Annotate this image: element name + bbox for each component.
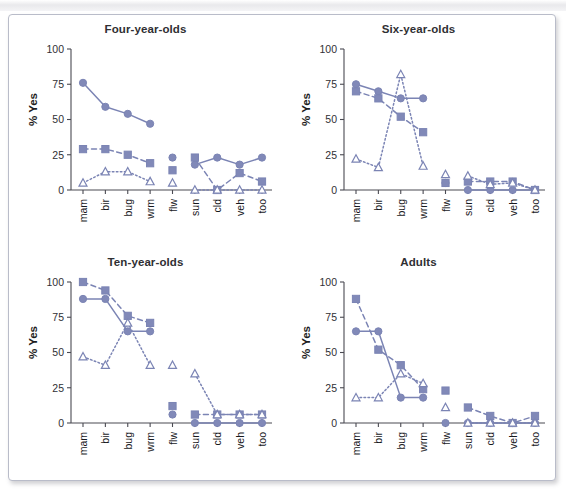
data-point-square [236, 169, 243, 176]
x-axis-tick-label: bir [99, 198, 111, 210]
y-axis-tick-label: 25 [325, 149, 337, 161]
data-point-circle [147, 120, 154, 127]
data-point-circle [420, 95, 427, 102]
y-axis-tick-label: 0 [58, 184, 64, 196]
x-axis-tick-label: sun [189, 431, 201, 448]
y-axis-tick-label: 100 [319, 275, 337, 287]
data-point-square [147, 319, 154, 326]
figure-frame: Four-year-olds % Yes 0255075100mambirbug… [8, 14, 556, 481]
data-point-square [102, 146, 109, 153]
x-axis-tick-label: mam [350, 431, 362, 455]
y-axis-tick-label: 50 [52, 113, 64, 125]
data-point-circle [124, 110, 131, 117]
x-axis-tick-label: sun [462, 431, 474, 448]
data-point-square [79, 278, 86, 285]
y-axis-tick-label: 50 [325, 113, 337, 125]
panel-six-year-olds: Six-year-olds % Yes 0255075100mambirbugw… [282, 15, 555, 248]
data-point-circle [509, 186, 516, 193]
data-point-square [420, 129, 427, 136]
data-point-square [442, 386, 449, 393]
data-point-square [191, 410, 198, 417]
panel-adults: Adults % Yes 0255075100mambirbugwrmflwsu… [282, 248, 555, 481]
data-point-square [102, 286, 109, 293]
data-point-square [397, 113, 404, 120]
x-axis-tick-label: flw [167, 199, 179, 212]
data-point-square [258, 178, 265, 185]
series-circle-solid [79, 79, 265, 168]
x-axis-tick-label: too [529, 431, 541, 446]
x-axis-tick-label: bir [99, 431, 111, 443]
data-point-circle [258, 419, 265, 426]
x-axis-tick-label: wrm [417, 199, 429, 220]
data-point-triangle [191, 369, 199, 376]
data-point-square [124, 151, 131, 158]
data-point-triangle [464, 172, 472, 179]
data-point-square [79, 146, 86, 153]
y-axis-tick-label: 0 [58, 416, 64, 428]
data-point-circle [258, 154, 265, 161]
data-point-square [464, 403, 471, 410]
y-axis-tick-label: 0 [331, 184, 337, 196]
y-axis-tick-label: 25 [52, 381, 64, 393]
x-axis-tick-label: flw [440, 199, 452, 212]
data-point-circle [397, 394, 404, 401]
data-point-square [352, 295, 359, 302]
y-axis-tick-label: 50 [325, 346, 337, 358]
y-axis-tick-label: 100 [46, 43, 64, 55]
y-axis-tick-label: 75 [52, 311, 64, 323]
x-axis-tick-label: veh [507, 199, 519, 216]
data-point-circle [169, 410, 176, 417]
x-axis-tick-label: cld [211, 431, 223, 445]
data-point-circle [375, 327, 382, 334]
data-point-circle [191, 419, 198, 426]
x-axis-tick-label: mam [350, 199, 362, 223]
plot-area: 0255075100mambirbugwrmflwsuncldvehtoo [282, 248, 555, 480]
x-axis-tick-label: wrm [144, 199, 156, 220]
x-axis-tick-label: sun [189, 199, 201, 216]
data-point-triangle [397, 70, 405, 77]
x-axis-tick-label: bug [395, 431, 407, 449]
data-point-triangle [169, 360, 177, 367]
x-axis-tick-label: veh [234, 431, 246, 448]
data-point-circle [214, 154, 221, 161]
data-point-circle [352, 81, 359, 88]
x-axis-tick-label: wrm [144, 431, 156, 452]
x-axis-tick-label: sun [462, 199, 474, 216]
x-axis-tick-label: too [529, 199, 541, 214]
x-axis-tick-label: veh [234, 199, 246, 216]
data-point-square [191, 154, 198, 161]
x-axis-tick-label: mam [77, 199, 89, 223]
x-axis-tick-label: flw [440, 431, 452, 444]
data-point-circle [464, 186, 471, 193]
data-point-circle [442, 419, 449, 426]
x-axis-tick-label: too [256, 431, 268, 446]
page-top-band [0, 0, 566, 11]
data-point-square [169, 167, 176, 174]
data-point-circle [147, 327, 154, 334]
y-axis-tick-label: 75 [325, 78, 337, 90]
y-axis-tick-label: 75 [52, 78, 64, 90]
data-point-circle [214, 419, 221, 426]
panel-grid: Four-year-olds % Yes 0255075100mambirbug… [9, 15, 555, 480]
y-axis-tick-label: 50 [52, 346, 64, 358]
x-axis-tick-label: cld [211, 199, 223, 213]
y-axis-tick-label: 75 [325, 311, 337, 323]
x-axis-tick-label: wrm [417, 431, 429, 452]
data-point-triangle [442, 170, 450, 177]
x-axis-tick-label: mam [77, 431, 89, 455]
x-axis-tick-label: veh [507, 431, 519, 448]
data-point-circle [102, 103, 109, 110]
data-point-square [442, 179, 449, 186]
data-point-triangle [419, 162, 427, 169]
data-point-circle [352, 327, 359, 334]
data-point-triangle [352, 393, 360, 400]
data-point-square [375, 346, 382, 353]
y-axis-tick-label: 100 [319, 43, 337, 55]
series-circle-solid [352, 327, 538, 426]
x-axis-tick-label: bug [122, 199, 134, 217]
data-point-square [397, 361, 404, 368]
panel-ten-year-olds: Ten-year-olds % Yes 0255075100mambirbugw… [9, 248, 282, 481]
y-axis-tick-label: 100 [46, 275, 64, 287]
data-point-circle [236, 419, 243, 426]
y-axis-tick-label: 25 [325, 381, 337, 393]
